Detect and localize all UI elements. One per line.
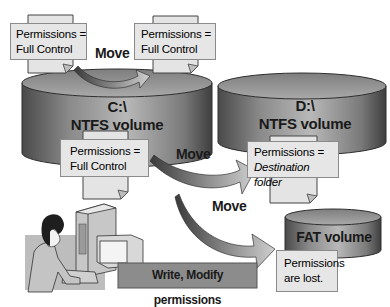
note-line: Permissions = [254, 145, 338, 160]
note-line: Full Control [70, 159, 148, 174]
note-d-dest: Permissions = Destination folder [247, 141, 339, 178]
volume-c-drive: C:\ [62, 98, 172, 116]
note-line: Permissions = [16, 27, 86, 42]
volume-c-fs: NTFS volume [62, 116, 172, 134]
move-label-to-fat: Move [212, 198, 247, 214]
note-line: are lost. [284, 271, 337, 286]
volume-d-drive: D:\ [250, 97, 360, 115]
volume-c-label: C:\ NTFS volume [62, 98, 172, 134]
note-line: Full Control [16, 42, 86, 57]
note-c-bottom: Permissions = Full Control [60, 139, 149, 177]
note-line: Full Control [141, 42, 215, 57]
move-label-same-volume: Move [95, 45, 130, 61]
note-c-source: Permissions = Full Control [10, 23, 87, 60]
note-line: Destination folder [254, 160, 338, 190]
user-caption: Write, Modify permissions [118, 263, 257, 288]
note-c-dest: Permissions = Full Control [134, 23, 216, 60]
volume-d-label: D:\ NTFS volume [250, 97, 360, 133]
note-fat-dest: Permissions are lost. [276, 250, 338, 292]
volume-fat-fs: FAT volume [286, 228, 382, 246]
volume-d-fs: NTFS volume [250, 115, 360, 133]
note-line: Permissions = [141, 27, 215, 42]
volume-fat-label: FAT volume [286, 228, 382, 246]
note-line: Permissions = [70, 144, 148, 159]
move-label-to-d: Move [176, 146, 211, 162]
note-line: Permissions [284, 256, 337, 271]
